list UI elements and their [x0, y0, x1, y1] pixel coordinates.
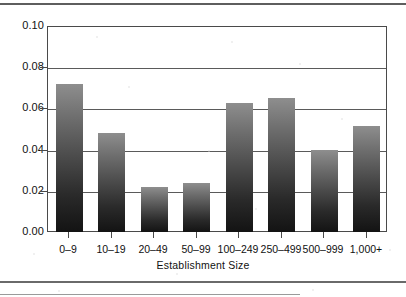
scan-speckle [33, 253, 35, 255]
bar [56, 84, 83, 232]
bar [98, 133, 125, 232]
scan-speckle [176, 273, 178, 275]
x-axis-tick-mark [153, 232, 154, 238]
bar [268, 98, 295, 232]
bar [141, 187, 168, 232]
figure-container: 0.100.080.060.040.020.00 0–910–1920–4950… [0, 0, 406, 297]
x-axis-tick-mark [111, 232, 112, 238]
y-axis-tick-label: 0.04 [8, 144, 44, 155]
top-horizontal-rule [0, 3, 406, 5]
x-axis-tick-mark [68, 232, 69, 238]
bottom-horizontal-rule [0, 281, 406, 283]
bar-series [47, 26, 387, 232]
bar [226, 103, 253, 232]
bottom-horizontal-rule-short [0, 294, 300, 295]
bar [353, 126, 380, 232]
x-axis-tick-mark [323, 232, 324, 238]
scan-speckle [389, 249, 391, 251]
x-axis-tick-mark [366, 232, 367, 238]
y-axis-tick-label: 0.08 [8, 61, 44, 72]
bar [183, 183, 210, 232]
bar [311, 150, 338, 232]
y-axis-tick-label: 0.10 [8, 20, 44, 31]
x-axis-tick-mark [196, 232, 197, 238]
scan-speckle [312, 289, 314, 291]
x-axis-tick-label: 1,000+ [336, 243, 396, 255]
x-axis-tick-mark [281, 232, 282, 238]
x-axis-tick-mark [238, 232, 239, 238]
scan-speckle [58, 290, 60, 292]
y-axis-tick-label: 0.02 [8, 185, 44, 196]
y-axis-tick-label: 0.00 [8, 226, 44, 237]
y-axis-tick-label: 0.06 [8, 102, 44, 113]
x-axis-title: Establishment Size [0, 259, 406, 271]
